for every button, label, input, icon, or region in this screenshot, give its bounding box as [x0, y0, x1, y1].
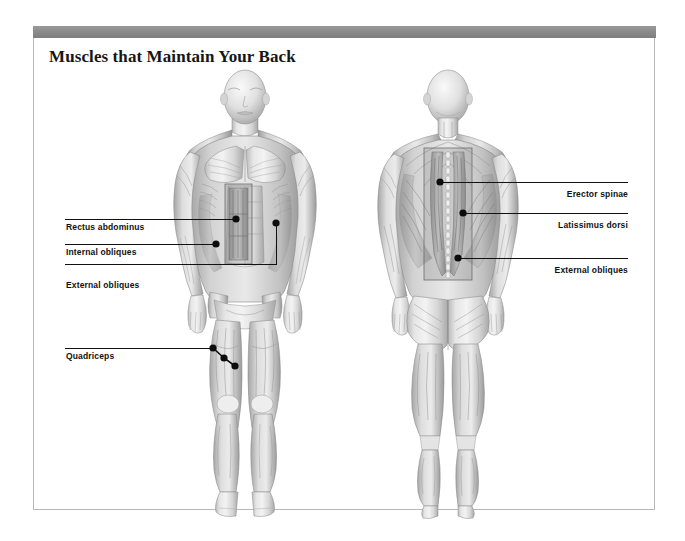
- callout-label-external-obliques-right[interactable]: External obliques: [468, 265, 628, 275]
- callout-label-latissimus-dorsi[interactable]: Latissimus dorsi: [468, 220, 628, 230]
- callout-label-internal-obliques[interactable]: Internal obliques: [66, 247, 137, 257]
- callout-label-rectus-abdominus[interactable]: Rectus abdominus: [66, 222, 144, 232]
- callout-label-external-obliques-left[interactable]: External obliques: [66, 280, 139, 290]
- diagram-root: Muscles that Maintain Your Back: [0, 0, 685, 541]
- header-bar: [33, 26, 656, 38]
- callout-label-quadriceps[interactable]: Quadriceps: [66, 351, 114, 361]
- page-title: Muscles that Maintain Your Back: [49, 47, 296, 67]
- callout-label-erector-spinae[interactable]: Erector spinae: [468, 189, 628, 199]
